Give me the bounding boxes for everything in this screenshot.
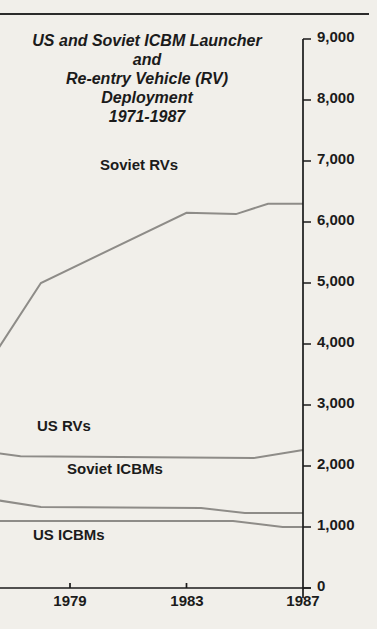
y-tick-label-1-000: 1,000 bbox=[317, 516, 355, 533]
series-line-us-rvs bbox=[0, 450, 303, 458]
y-tick-label-4-000: 4,000 bbox=[317, 333, 355, 350]
series-line-soviet-icbms bbox=[0, 500, 303, 513]
y-tick-label-3-000: 3,000 bbox=[317, 394, 355, 411]
y-tick-label-2-000: 2,000 bbox=[317, 455, 355, 472]
chart-page: US and Soviet ICBM Launcher and Re-entry… bbox=[0, 0, 377, 629]
y-tick-label-7-000: 7,000 bbox=[317, 150, 355, 167]
series-label-us-icbms: US ICBMs bbox=[33, 526, 105, 543]
x-tick-label-1983: 1983 bbox=[170, 592, 203, 609]
series-label-soviet-rvs: Soviet RVs bbox=[100, 156, 178, 173]
series-label-us-rvs: US RVs bbox=[37, 417, 91, 434]
x-tick-label-1987: 1987 bbox=[286, 592, 319, 609]
series-line-soviet-rvs bbox=[0, 204, 303, 350]
y-tick-label-5-000: 5,000 bbox=[317, 272, 355, 289]
x-tick-label-1979: 1979 bbox=[53, 592, 86, 609]
y-tick-label-8-000: 8,000 bbox=[317, 89, 355, 106]
series-label-soviet-icbms: Soviet ICBMs bbox=[67, 460, 163, 477]
y-tick-marks bbox=[303, 39, 311, 588]
y-tick-label-9-000: 9,000 bbox=[317, 28, 355, 45]
y-tick-label-6-000: 6,000 bbox=[317, 211, 355, 228]
